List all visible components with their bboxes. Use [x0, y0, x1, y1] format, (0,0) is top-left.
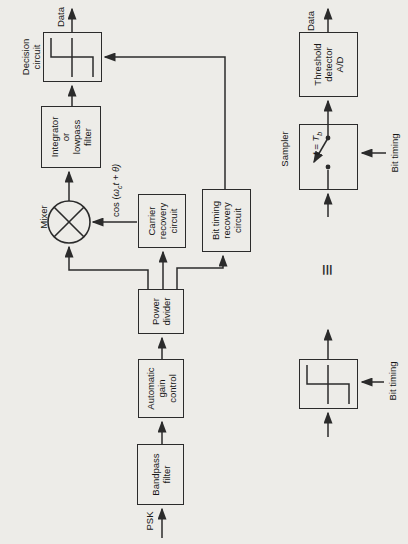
mixer-label: Mixer — [38, 192, 49, 242]
power-divider-box: Power divider — [138, 289, 184, 334]
bandpass-filter-box: Bandpass filter — [137, 444, 184, 505]
limiter-box — [299, 359, 358, 409]
psk-input-label: PSK — [144, 506, 155, 536]
threshold-detector-box: Threshold detector A/D — [299, 32, 358, 97]
carrier-signal-label: cos (ωct + θ) — [110, 164, 125, 217]
divider-to-bittiming-arrow — [177, 256, 223, 289]
divider-to-mixer-arrow — [69, 247, 148, 289]
integrator-box: Integrator or lowpass filter — [41, 106, 101, 168]
data-output-label: Data — [55, 2, 66, 32]
limiter-bit-timing-label: Bit timing — [387, 348, 398, 414]
decision-circuit-box — [43, 32, 102, 82]
sampler-box — [299, 124, 358, 190]
scanned-figure-page: Bandpass filter Automatic gain control P… — [0, 0, 408, 544]
data2-output-label: Data — [305, 6, 316, 36]
bit-timing-recovery-box: Bit timing recovery circuit — [202, 189, 251, 252]
mixer-icon — [48, 201, 90, 243]
psk-receiver-diagram: Bandpass filter Automatic gain control P… — [0, 0, 408, 544]
sampler-label: Sampler — [279, 122, 290, 176]
carrier-recovery-box: Carrier recovery circuit — [138, 194, 186, 248]
sample-time-label: t = Tb — [310, 132, 325, 155]
sampler-bit-timing-label: Bit timing — [389, 120, 400, 186]
decision-circuit-label: Decision circuit — [20, 27, 42, 87]
equivalence-symbol: ≡ — [316, 258, 338, 282]
agc-box: Automatic gain control — [138, 359, 184, 418]
